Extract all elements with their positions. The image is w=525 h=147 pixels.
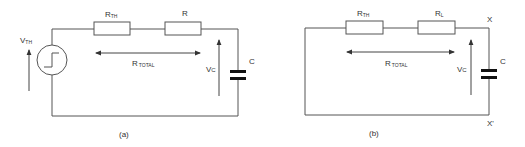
resistor-rl-icon	[418, 21, 455, 34]
rtotal-label: RTOTAL	[385, 59, 408, 68]
circuit-b: RTH RL X X' RTOTAL VC C (b)	[305, 9, 506, 138]
terminal-x-prime-label: X'	[487, 119, 494, 128]
rtotal-label: RTOTAL	[132, 59, 155, 68]
rth-label: RTH	[105, 10, 118, 19]
capacitor-label: C	[500, 57, 506, 66]
resistor-rth-icon	[346, 21, 383, 34]
circuit-diagram: VTH RTH R RTOTAL VC C (a) RTH	[0, 0, 525, 147]
capacitor-icon	[230, 70, 246, 80]
vth-label: VTH	[20, 36, 32, 45]
rth-label: RTH	[357, 9, 370, 18]
vc-label: VC	[206, 65, 216, 74]
resistor-r-icon	[165, 22, 201, 35]
capacitor-label: C	[249, 57, 255, 66]
rl-label: RL	[435, 9, 444, 18]
terminal-x-label: X	[487, 15, 493, 24]
resistor-rth-icon	[94, 22, 130, 35]
r-label: R	[182, 9, 188, 18]
circuit-svg: VTH RTH R RTOTAL VC C (a) RTH	[0, 0, 525, 147]
step-voltage-source-icon	[37, 45, 67, 75]
vc-label: VC	[457, 65, 467, 74]
circuit-a: VTH RTH R RTOTAL VC C (a)	[20, 9, 255, 139]
caption-b: (b)	[369, 129, 379, 138]
caption-a: (a)	[119, 130, 129, 139]
capacitor-icon	[481, 69, 497, 79]
